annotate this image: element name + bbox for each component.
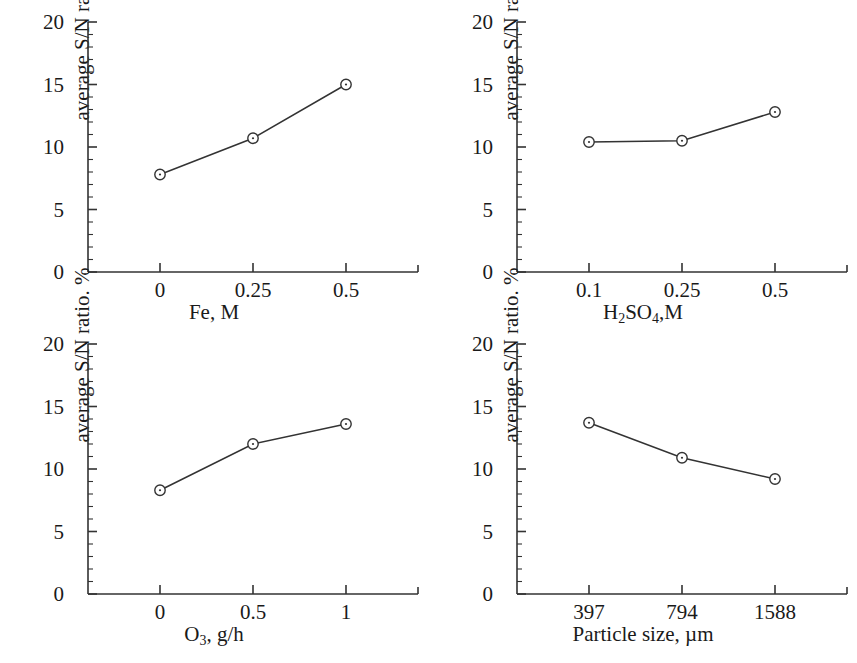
y-tick-label: 15: [18, 72, 64, 97]
data-series-line: [160, 85, 346, 175]
x-tick-label: 0.5: [333, 278, 359, 303]
y-tick-label: 0: [447, 260, 493, 285]
figure-caption-fragment: [0, 652, 857, 663]
y-tick-label: 20: [447, 10, 493, 35]
data-point-center-dot: [774, 478, 776, 480]
y-tick-label: 15: [447, 72, 493, 97]
data-point-center-dot: [252, 137, 254, 139]
x-tick-label: 0: [155, 278, 166, 303]
x-axis-label-particle-size: Particle size, µm: [429, 622, 857, 647]
x-tick-label: 1588: [754, 600, 796, 625]
y-tick-label: 0: [18, 260, 64, 285]
chart-panel-particle-size: average S/N ratio. % Particle size, µm 0…: [429, 322, 857, 652]
y-tick-label: 10: [18, 457, 64, 482]
x-axis-label-o3: O3, g/h: [0, 622, 428, 649]
y-tick-label: 5: [447, 519, 493, 544]
x-tick-label: 794: [666, 600, 698, 625]
chart-panel-h2so4: average S/N ratio. % H2SO4,M 051015200.1…: [429, 0, 857, 330]
x-tick-label: 0.1: [576, 278, 602, 303]
data-point-center-dot: [252, 443, 254, 445]
y-tick-label: 5: [18, 197, 64, 222]
data-point-center-dot: [774, 111, 776, 113]
data-point-center-dot: [681, 457, 683, 459]
data-point-center-dot: [681, 140, 683, 142]
x-tick-label: 0: [155, 600, 166, 625]
y-tick-label: 5: [447, 197, 493, 222]
x-tick-label: 0.5: [762, 278, 788, 303]
plot-area-o3: [0, 322, 428, 652]
data-point-center-dot: [345, 83, 347, 85]
data-point-center-dot: [159, 489, 161, 491]
y-tick-label: 20: [18, 10, 64, 35]
y-tick-label: 10: [447, 135, 493, 160]
y-tick-label: 15: [447, 394, 493, 419]
y-tick-label: 10: [447, 457, 493, 482]
x-tick-label: 1: [341, 600, 352, 625]
y-tick-label: 10: [18, 135, 64, 160]
data-series-line: [160, 424, 346, 490]
x-tick-label: 0.25: [235, 278, 272, 303]
y-tick-label: 0: [18, 582, 64, 607]
y-tick-label: 0: [447, 582, 493, 607]
data-series-line: [589, 423, 775, 479]
y-tick-label: 15: [18, 394, 64, 419]
y-tick-label: 5: [18, 519, 64, 544]
x-tick-label: 397: [573, 600, 605, 625]
plot-area-h2so4: [429, 0, 857, 330]
data-point-center-dot: [159, 173, 161, 175]
figure-panel-grid: average S/N ratio. % Fe, M 0510152000.25…: [0, 0, 857, 663]
chart-panel-fe: average S/N ratio. % Fe, M 0510152000.25…: [0, 0, 428, 330]
x-tick-label: 0.5: [240, 600, 266, 625]
y-tick-label: 20: [447, 332, 493, 357]
y-tick-label: 20: [18, 332, 64, 357]
x-tick-label: 0.25: [664, 278, 701, 303]
data-point-center-dot: [345, 423, 347, 425]
plot-area-fe: [0, 0, 428, 330]
chart-panel-o3: average S/N ratio. % O3, g/h 0510152000.…: [0, 322, 428, 652]
data-point-center-dot: [588, 422, 590, 424]
data-point-center-dot: [588, 141, 590, 143]
